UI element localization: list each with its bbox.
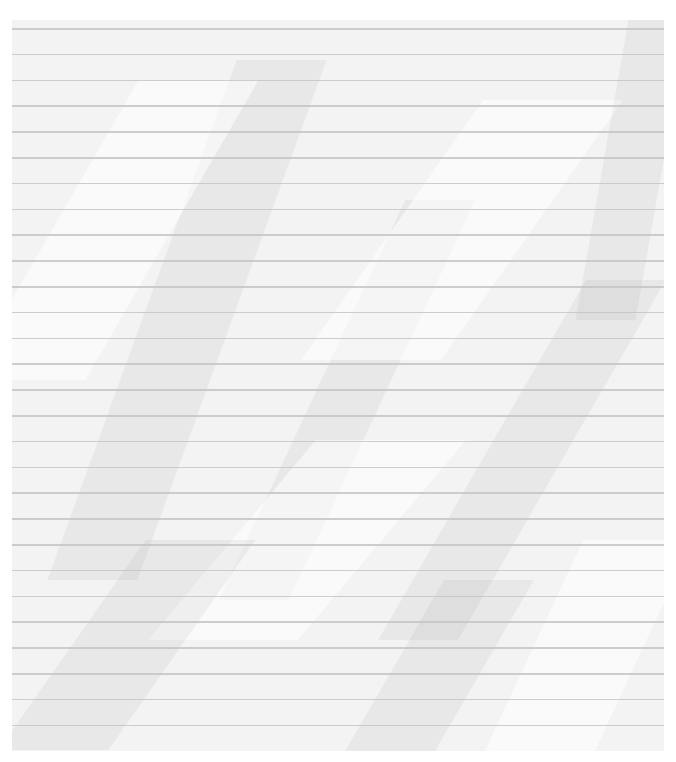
ruled-line [12,467,664,469]
ruled-line [12,183,664,185]
ruled-line [12,621,664,623]
lined-paper-sheet [12,20,664,751]
ruled-line [12,80,664,82]
ruled-line [12,209,664,211]
ruled-line [12,234,664,236]
ruled-line [12,596,664,598]
ruled-line [12,286,664,288]
ruled-line [12,131,664,133]
ruled-line [12,570,664,572]
ruled-line [12,699,664,701]
ruled-line [12,725,664,727]
ruled-line [12,54,664,56]
ruled-line [12,105,664,107]
crease-shadow [12,540,256,750]
ruled-line [12,647,664,649]
ruled-line [12,492,664,494]
ruled-line [12,363,664,365]
ruled-line [12,28,664,30]
ruled-line [12,673,664,675]
ruled-line [12,312,664,314]
ruled-line [12,518,664,520]
ruled-line [12,157,664,159]
ruled-line [12,441,664,443]
ruled-line [12,260,664,262]
ruled-line [12,338,664,340]
crease-shadow [576,20,664,320]
ruled-line [12,544,664,546]
ruled-line [12,389,664,391]
ruled-line [12,415,664,417]
crease-highlight [481,540,664,751]
